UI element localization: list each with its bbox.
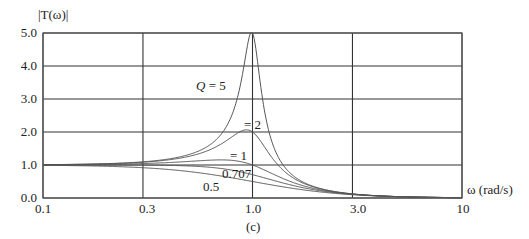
curve-label-q0707: 0.707 [222,167,251,180]
x-tick-0: 0.1 [23,202,63,215]
curve-label-q05: 0.5 [203,180,219,193]
x-tick-2: 1.0 [233,202,273,215]
q-symbol: Q [196,78,205,93]
curve-label-q1: = 1 [230,149,247,162]
grid-lines [43,33,462,198]
curve-label-q5: Q = 5 [196,79,226,92]
y-tick-3: 3.0 [3,92,37,105]
y-tick-1: 1.0 [3,158,37,171]
q5-value: = 5 [205,78,225,93]
y-tick-5: 5.0 [3,26,37,39]
figure-caption: (c) [246,220,260,233]
x-axis-label: ω (rad/s) [467,183,513,196]
curve-label-q2: = 2 [244,118,261,131]
y-tick-4: 4.0 [3,59,37,72]
x-tick-4: 10 [443,202,483,215]
x-tick-3: 3.0 [338,202,378,215]
y-axis-label: |T(ω)| [38,8,68,21]
y-tick-2: 2.0 [3,125,37,138]
x-tick-1: 0.3 [127,202,167,215]
